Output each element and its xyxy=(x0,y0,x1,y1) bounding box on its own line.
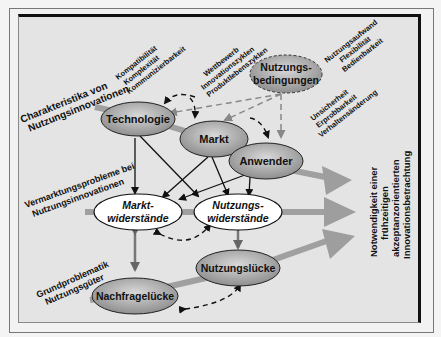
svg-text:Notwendigkeit einer: Notwendigkeit einer xyxy=(368,166,379,257)
svg-text:frühzeitigen: frühzeitigen xyxy=(379,186,390,240)
diagram-canvas: Technologie Markt Anwender Nutzungs- bed… xyxy=(0,0,441,337)
attributes-nutzungsbedingungen: Nutzungsaufwand Flexibilität Bedienbarke… xyxy=(323,17,391,78)
big-arrows xyxy=(322,166,356,259)
node-technologie: Technologie xyxy=(101,102,175,136)
svg-text:Nutzungslücke: Nutzungslücke xyxy=(201,262,276,274)
svg-text:Innovationsbetrachtung: Innovationsbetrachtung xyxy=(401,151,412,259)
svg-text:widerstände: widerstände xyxy=(207,212,268,224)
arrow-top-head xyxy=(322,166,352,195)
svg-text:Anwender: Anwender xyxy=(239,155,293,167)
svg-text:Markt-: Markt- xyxy=(122,199,154,211)
arrow-middle-head xyxy=(324,197,356,227)
svg-text:Nutzungs-: Nutzungs- xyxy=(212,199,264,211)
conclusion-text: Notwendigkeit einer frühzeitigen akzepta… xyxy=(368,151,412,259)
node-nachfrageluecke: Nachfragelücke xyxy=(92,278,178,314)
node-nutzungsbedingungen: Nutzungs- bedingungen xyxy=(250,55,322,93)
arrow-bottom-head xyxy=(322,229,355,259)
svg-text:Nutzungs-: Nutzungs- xyxy=(260,61,312,73)
svg-text:bedingungen: bedingungen xyxy=(253,74,319,86)
svg-text:Nachfragelücke: Nachfragelücke xyxy=(96,290,174,302)
node-nutzungswiderstaende: Nutzungs- widerstände xyxy=(194,194,282,230)
svg-text:Technologie: Technologie xyxy=(106,113,170,125)
node-anwender: Anwender xyxy=(229,143,303,179)
svg-text:widerstände: widerstände xyxy=(107,212,168,224)
node-marktwiderstaende: Markt- widerstände xyxy=(94,194,182,230)
node-nutzungsluecke: Nutzungslücke xyxy=(196,250,280,286)
svg-text:Markt: Markt xyxy=(199,133,229,145)
svg-text:akzeptanzorientierten: akzeptanzorientierten xyxy=(390,159,401,257)
